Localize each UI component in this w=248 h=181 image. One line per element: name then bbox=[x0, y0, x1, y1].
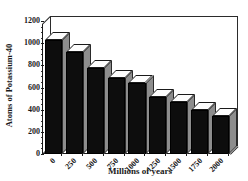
x-tick-mark bbox=[82, 153, 83, 156]
x-tick-mark bbox=[124, 153, 125, 156]
x-tick-mark bbox=[186, 153, 187, 156]
x-tick-mark bbox=[103, 153, 104, 156]
x-axis-title: Millions of years bbox=[42, 166, 238, 176]
x-tick-mark bbox=[61, 153, 62, 156]
x-tick-mark bbox=[228, 153, 229, 156]
x-tick-mark bbox=[165, 153, 166, 156]
chart-potassium-40-decay: Atoms of Potassium-40 020040060080010001… bbox=[0, 0, 248, 181]
x-tick-mark bbox=[207, 153, 208, 156]
x-tick-mark bbox=[144, 153, 145, 156]
x-axis-ticks: 025050075010001250150017502000 bbox=[0, 0, 248, 181]
